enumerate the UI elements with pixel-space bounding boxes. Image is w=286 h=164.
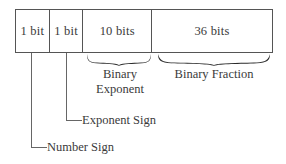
group-label-binary-exponent: Binary Exponent <box>83 67 157 97</box>
group-label-line-1: Binary Fraction <box>155 67 273 82</box>
curly-brace-binary-exponent-icon <box>86 53 152 66</box>
group-label-line-2: Exponent <box>83 82 157 97</box>
bit-field-cell-exponent-sign: 1 bit <box>50 10 84 52</box>
callout-label-exponent-sign: Exponent Sign <box>82 113 156 127</box>
bit-field-cell-number-sign: 1 bit <box>16 10 50 52</box>
leader-line-number-sign-vertical <box>31 53 32 148</box>
bit-field-cell-label: 1 bit <box>21 24 45 39</box>
callout-label-number-sign: Number Sign <box>47 140 114 154</box>
leader-line-number-sign-horizontal <box>31 147 47 148</box>
group-label-line-1: Binary <box>83 67 157 82</box>
leader-line-exponent-sign-horizontal <box>66 120 82 121</box>
curly-brace-binary-fraction-icon <box>157 53 271 66</box>
bit-field-diagram: 1 bit 1 bit 10 bits 36 bits Binary Expon… <box>0 0 286 164</box>
bit-field-cell-label: 10 bits <box>100 24 135 39</box>
bit-field-cell-binary-fraction: 36 bits <box>152 10 272 52</box>
leader-line-exponent-sign-vertical <box>66 53 67 121</box>
group-label-binary-fraction: Binary Fraction <box>155 67 273 82</box>
bit-field-box: 1 bit 1 bit 10 bits 36 bits <box>15 9 273 53</box>
bit-field-cell-label: 36 bits <box>194 24 229 39</box>
bit-field-cell-binary-exponent: 10 bits <box>83 10 151 52</box>
bit-field-cell-label: 1 bit <box>54 24 78 39</box>
